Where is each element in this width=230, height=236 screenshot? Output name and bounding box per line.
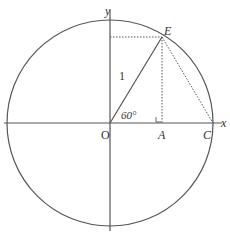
origin-label: O [101, 128, 110, 142]
point-e-label: E [163, 24, 172, 38]
radius-label: 1 [119, 69, 125, 83]
unit-circle-diagram: y x E O A C 1 60° [0, 0, 230, 236]
right-angle-mark [156, 117, 161, 122]
point-a-label: A [157, 128, 166, 142]
x-axis-label: x [220, 116, 227, 130]
dotted-ec [162, 37, 213, 123]
y-axis-label: y [104, 4, 111, 18]
angle-label: 60° [121, 109, 137, 121]
point-c-label: C [203, 128, 212, 142]
